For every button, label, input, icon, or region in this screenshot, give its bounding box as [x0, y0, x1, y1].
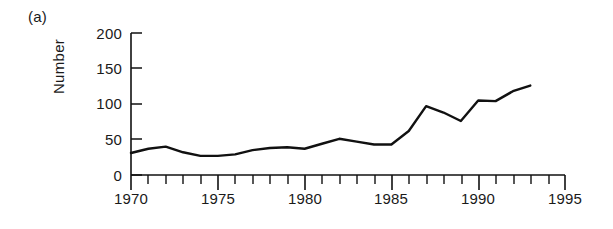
x-tick-label-1990: 1990 [443, 190, 513, 207]
panel-label: (a) [28, 8, 47, 25]
x-tick-marks-minor [148, 175, 549, 184]
x-tick-label-1980: 1980 [270, 190, 340, 207]
y-tick-label-200: 200 [76, 25, 122, 42]
y-tick-label-0: 0 [76, 167, 122, 184]
y-tick-label-150: 150 [76, 60, 122, 77]
y-axis-title: Number [50, 7, 67, 127]
y-tick-label-100: 100 [76, 95, 122, 112]
x-tick-label-1985: 1985 [356, 190, 426, 207]
x-tick-label-1995: 1995 [530, 190, 600, 207]
x-tick-label-1975: 1975 [183, 190, 253, 207]
y-tick-label-50: 50 [76, 131, 122, 148]
x-tick-marks-major [131, 175, 565, 190]
data-series-line [131, 86, 530, 156]
figure-panel-a: (a) Number 200 150 100 50 0 1970 1975 19… [0, 0, 613, 229]
x-tick-label-1970: 1970 [96, 190, 166, 207]
